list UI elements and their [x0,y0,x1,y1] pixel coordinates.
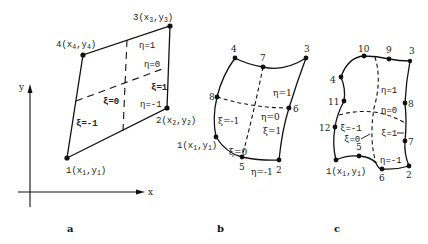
node-7-label: 7 [408,137,414,147]
y-axis-arrow-icon [28,84,33,93]
node-7 [261,65,266,70]
node-5 [357,154,362,159]
edge-4-11-12-1 [334,77,345,160]
eta-zero-label: η=0 [381,106,397,116]
panel-a-caption: a [67,223,74,234]
eta-neg1-label: η=-1 [140,100,162,110]
node-2-label: 2 [276,165,282,175]
x-axis-arrow-icon [136,190,145,195]
node-4 [339,75,344,80]
xi-zero-pointer [361,134,370,139]
node-2 [277,158,282,163]
node-4 [80,52,85,57]
node-9 [387,57,392,62]
node-12 [333,125,338,130]
node-11 [342,99,347,104]
xi-zero-label: ξ=0 [103,97,119,107]
y-axis-label: y [18,82,25,92]
panel-b-caption: b [217,223,224,234]
node-3-label: 3 [304,44,310,54]
eta-pos1-label: η=1 [139,41,155,51]
edge-1-5-2 [216,137,279,160]
node-3 [167,23,172,28]
eta-pos1-label: η=1 [273,88,292,98]
eta-zero-label: η=0 [261,112,280,122]
node-1 [214,135,219,140]
node-2 [407,164,412,169]
xi-neg1-label: ξ=-1 [76,119,98,129]
eta-pos1-label: η=1 [381,86,397,96]
node-1-label: 1(x1,y1) [326,167,366,178]
node-10-label: 10 [358,44,370,54]
edge-2-7-8-3 [405,61,410,166]
node-3 [408,59,412,63]
node-8-label: 8 [408,99,414,109]
node-6-label: 6 [379,173,385,183]
node-11-label: 11 [328,97,339,107]
eta-zero-label: η=0 [144,60,160,70]
node-4-label: 4 [231,44,237,54]
node-9-label: 9 [386,45,392,55]
node-10 [362,54,367,59]
node-1 [334,158,339,163]
node-4-label: 4(x4,y4) [56,40,96,51]
node-3-label: 3(x3,y3) [133,13,173,24]
node-2-label: 2(x2,y2) [156,116,196,127]
xi-zero-label: ξ=0 [229,147,247,157]
xi-pos1-label: ξ=1 [151,83,168,93]
node-1-label: 1(x1,y1) [66,166,106,177]
node-12-label: 12 [319,123,330,133]
node-2 [164,105,169,110]
x-axis-label: x [148,187,153,197]
node-6 [287,106,292,111]
node-4 [233,56,238,61]
node-8 [215,95,220,100]
xi-zero-line [372,57,378,163]
node-7-label: 7 [260,53,266,63]
node-4-label: 4 [330,75,336,85]
panel-a: y x 1(x1,y1) 2(x2,y2) 3(x3,y3) 4(x4,y4) … [18,13,196,234]
node-3 [304,56,309,61]
xi-neg1-label: ξ=-1 [340,124,362,134]
xi-zero-label: ξ=0 [344,135,360,145]
node-8 [403,101,408,106]
panel-c-caption: c [334,223,340,234]
xi-pos1-label: ξ=1 [381,129,397,139]
eta-neg1-label: η=-1 [380,156,402,166]
xi-neg1-label: ξ=-1 [218,116,239,126]
xi-zero-line [123,40,127,131]
node-8-label: 8 [209,92,215,102]
panel-c: 4 10 9 3 11 8 12 7 5 6 2 1(x1,y1) η=1 η=… [319,44,415,234]
panel-b: 4 7 3 8 6 5 2 1(x1,y1) η=1 η=0 η=-1 ξ=1 … [177,44,310,234]
edge-3-7-4 [235,58,306,68]
node-3-label: 3 [409,46,415,56]
eta-zero-line [217,97,289,108]
xi-zero-line [242,67,263,157]
node-1-label: 1(x1,y1) [177,141,217,152]
isoparametric-elements-figure: y x 1(x1,y1) 2(x2,y2) 3(x3,y3) 4(x4,y4) … [0,0,428,244]
xi-pos1-label: ξ=1 [263,126,281,136]
node-6 [380,167,385,172]
node-6-label: 6 [293,104,299,114]
node-7 [403,139,408,144]
eta-neg1-label: η=-1 [251,167,273,177]
node-1 [64,155,69,160]
node-5-label: 5 [239,162,245,172]
node-2-label: 2 [406,170,412,180]
